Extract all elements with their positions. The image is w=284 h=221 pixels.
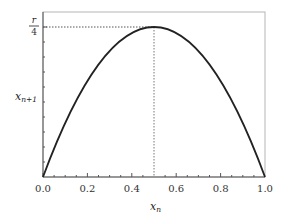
- x-tick-label: 0.6: [168, 183, 184, 194]
- x-ticks: [43, 173, 254, 177]
- y-ticks: [43, 27, 47, 162]
- svg-text:r: r: [32, 15, 37, 25]
- peak-value-label: r 4: [29, 15, 39, 37]
- svg-text:4: 4: [31, 27, 37, 37]
- x-tick-label: 0.4: [124, 183, 140, 194]
- logistic-map-chart: 0.0 0.2 0.4 0.6 0.8 1.0 xn xn+1 r 4: [0, 0, 284, 221]
- x-tick-label: 0.8: [213, 183, 229, 194]
- x-tick-label: 0.2: [79, 183, 95, 194]
- x-tick-label: 0.0: [35, 183, 51, 194]
- x-tick-label: 1.0: [257, 183, 273, 194]
- y-axis-label: xn+1: [15, 90, 37, 104]
- x-axis-label: xn: [150, 200, 161, 214]
